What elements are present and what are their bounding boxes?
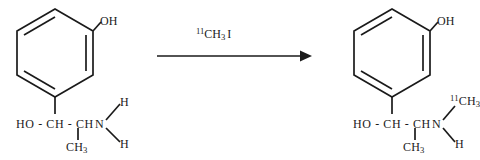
product-n-methyl-label: 11CH3 bbox=[450, 93, 480, 109]
reactant-side-chain-label: HO - CH - CH bbox=[16, 117, 94, 132]
product-branch-methyl-label: CH3 bbox=[403, 140, 425, 155]
product-nh-bond bbox=[443, 128, 455, 142]
reactant-nh-bond-top bbox=[106, 104, 120, 120]
reactant-nh-bond-bottom bbox=[106, 128, 120, 142]
reactant-amine-hydrogen-top: H bbox=[120, 95, 129, 110]
product-nitrogen-label: N bbox=[432, 117, 441, 132]
product-amine-hydrogen: H bbox=[455, 137, 464, 152]
reactant-hydroxyl-label: OH bbox=[100, 14, 118, 29]
reaction-arrow bbox=[157, 51, 312, 62]
product-benzene-ring bbox=[354, 9, 430, 97]
reactant-nitrogen-label: N bbox=[95, 117, 104, 132]
product-hydroxyl-label: OH bbox=[437, 14, 455, 29]
product-side-chain-label: HO - CH - CH bbox=[353, 117, 431, 132]
reactant-amine-hydrogen-bottom: H bbox=[120, 137, 129, 152]
reagent-label: 11CH3I bbox=[196, 26, 231, 42]
reactant-benzene-ring bbox=[17, 9, 93, 97]
reactant-branch-methyl-label: CH3 bbox=[66, 140, 88, 155]
